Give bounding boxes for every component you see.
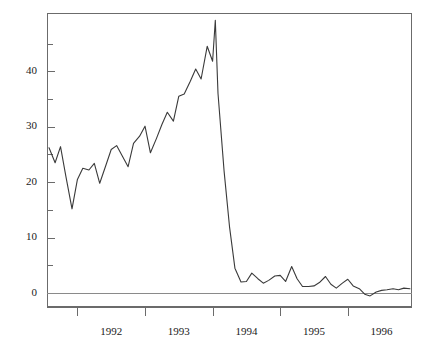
x-tick-label: 1996 [371, 325, 394, 337]
x-tick-label: 1993 [168, 325, 191, 337]
x-tick-label: 1994 [235, 325, 258, 337]
y-tick-label: 40 [26, 64, 38, 76]
y-tick-label: 20 [26, 175, 38, 187]
y-tick-label: 0 [32, 286, 38, 298]
x-tick-label: 1995 [303, 325, 326, 337]
line-chart: 010203040 19921993199419951996 [0, 0, 427, 349]
x-tick-label: 1992 [100, 325, 122, 337]
chart-figure: 010203040 19921993199419951996 [0, 0, 427, 349]
y-tick-label: 30 [26, 119, 38, 131]
y-tick-label: 10 [26, 230, 38, 242]
